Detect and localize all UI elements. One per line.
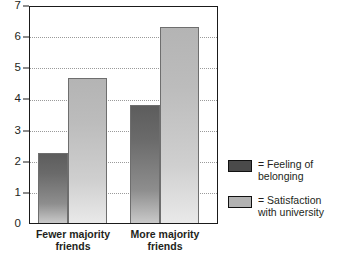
legend-swatch-dark-icon: [228, 160, 252, 172]
y-axis: 7 6 5 4 3 2 1 0: [0, 0, 29, 230]
bar-satisfaction-with-university-more-majority-friends: [160, 27, 199, 223]
y-tick-label-2: 2: [15, 156, 21, 168]
y-tick-label-4: 4: [15, 93, 21, 105]
bar-feeling-of-belonging-more-majority-friends: [130, 105, 160, 223]
legend-item-satisfaction-with-university: = Satisfaction with university: [228, 194, 340, 218]
y-tick-label-6: 6: [15, 31, 21, 43]
y-tick-label-0: 0: [15, 218, 21, 230]
y-tick-label-5: 5: [15, 62, 21, 74]
x-axis: Fewer majority friends More majority fri…: [29, 228, 218, 266]
legend-item-feeling-of-belonging: = Feeling of belonging: [228, 158, 340, 182]
legend-label-satisfaction-with-university: = Satisfaction with university: [258, 194, 324, 218]
bar-satisfaction-with-university-fewer-majority-friends: [68, 78, 107, 223]
y-tick-label-1: 1: [15, 187, 21, 199]
x-label-fewer-majority-friends: Fewer majority friends: [29, 228, 117, 252]
legend-swatch-light-icon: [228, 196, 252, 208]
legend-label-feeling-of-belonging: = Feeling of belonging: [258, 158, 313, 182]
bar-chart: 7 6 5 4 3 2 1 0 Fewer majo: [0, 0, 340, 266]
y-tick-label-7: 7: [15, 0, 21, 12]
bars-layer: [30, 7, 217, 223]
x-label-more-majority-friends: More majority friends: [121, 228, 209, 252]
bar-feeling-of-belonging-fewer-majority-friends: [38, 153, 68, 223]
plot-area: [29, 6, 218, 224]
y-tick-label-3: 3: [15, 125, 21, 137]
legend: = Feeling of belonging = Satisfaction wi…: [228, 158, 340, 230]
